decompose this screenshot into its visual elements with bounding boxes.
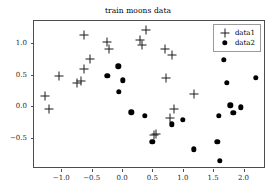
data-point-data1 bbox=[168, 50, 177, 59]
data-point-data1 bbox=[162, 73, 171, 82]
y-tick-label: 0.0 bbox=[16, 102, 27, 110]
plus-marker-icon bbox=[218, 28, 232, 38]
data-point-data2 bbox=[221, 57, 226, 62]
dot-marker-icon bbox=[218, 38, 232, 48]
y-tick-label: 1.0 bbox=[16, 39, 27, 47]
data-point-data2 bbox=[120, 78, 125, 83]
x-tick-mark bbox=[61, 169, 62, 172]
data-point-data1 bbox=[40, 91, 49, 100]
legend-label: data1 bbox=[232, 29, 255, 37]
data-point-data2 bbox=[217, 158, 222, 163]
legend-marker-glyph bbox=[220, 29, 229, 38]
data-point-data2 bbox=[215, 139, 220, 144]
x-tick-label: 1.0 bbox=[177, 174, 188, 182]
x-tick-mark bbox=[152, 169, 153, 172]
y-tick-label: 0.5 bbox=[16, 71, 27, 79]
data-point-data1 bbox=[44, 105, 53, 114]
legend-entry-data2: data2 bbox=[218, 38, 255, 48]
data-point-data2 bbox=[128, 110, 133, 115]
y-tick-mark bbox=[31, 138, 34, 139]
x-tick-mark bbox=[122, 169, 123, 172]
chart-title: train moons data bbox=[0, 6, 276, 15]
y-tick-label: −0.5 bbox=[10, 134, 27, 142]
data-point-data2 bbox=[116, 64, 121, 69]
x-tick-label: −1.0 bbox=[53, 174, 70, 182]
data-point-data1 bbox=[189, 89, 198, 98]
data-point-data1 bbox=[105, 45, 114, 54]
data-point-data1 bbox=[77, 76, 86, 85]
x-tick-label: 0.5 bbox=[147, 174, 158, 182]
data-point-data1 bbox=[152, 129, 161, 138]
data-point-data1 bbox=[141, 25, 150, 34]
x-tick-mark bbox=[244, 169, 245, 172]
y-tick-mark bbox=[31, 106, 34, 107]
y-tick-mark bbox=[31, 75, 34, 76]
x-tick-label: 1.5 bbox=[208, 174, 219, 182]
data-point-data1 bbox=[170, 105, 179, 114]
scatter-plot-figure: train moons data −1.0−0.50.00.51.01.52.0… bbox=[0, 0, 276, 196]
data-point-data2 bbox=[230, 110, 235, 115]
data-point-data2 bbox=[216, 113, 221, 118]
x-tick-mark bbox=[92, 169, 93, 172]
data-point-data2 bbox=[116, 89, 121, 94]
chart-legend: data1data2 bbox=[213, 24, 261, 52]
legend-marker-glyph bbox=[222, 40, 227, 45]
plot-axes-frame: −1.0−0.50.00.51.01.52.0 1.00.50.0−0.5 da… bbox=[33, 20, 265, 168]
x-tick-label: 0.0 bbox=[116, 174, 127, 182]
legend-label: data2 bbox=[232, 39, 255, 47]
data-point-data2 bbox=[150, 139, 155, 144]
data-point-data2 bbox=[253, 75, 258, 80]
data-point-data1 bbox=[54, 71, 63, 80]
x-tick-label: 2.0 bbox=[238, 174, 249, 182]
data-point-data2 bbox=[169, 122, 174, 127]
x-tick-mark bbox=[183, 169, 184, 172]
data-point-data1 bbox=[79, 31, 88, 40]
data-point-data2 bbox=[180, 117, 185, 122]
data-point-data1 bbox=[137, 40, 146, 49]
data-point-data1 bbox=[85, 54, 94, 63]
legend-entry-data1: data1 bbox=[218, 28, 255, 38]
data-point-data1 bbox=[80, 65, 89, 74]
data-point-data2 bbox=[105, 73, 110, 78]
data-point-data2 bbox=[224, 80, 229, 85]
data-point-data2 bbox=[238, 104, 243, 109]
data-point-data2 bbox=[142, 113, 147, 118]
data-point-data2 bbox=[191, 147, 196, 152]
data-point-data2 bbox=[227, 103, 232, 108]
y-tick-mark bbox=[31, 43, 34, 44]
x-tick-mark bbox=[213, 169, 214, 172]
x-tick-label: −0.5 bbox=[83, 174, 100, 182]
